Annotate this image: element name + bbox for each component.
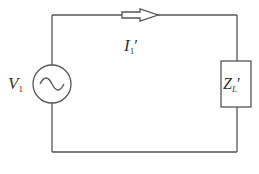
load-label: ZL′ — [223, 76, 240, 94]
current-arrow-icon — [122, 9, 158, 21]
current-prime: ′ — [134, 36, 138, 55]
load-symbol: Z — [223, 75, 232, 92]
load-prime: ′ — [237, 75, 241, 92]
current-label: I1′ — [124, 37, 138, 56]
circuit-diagram — [0, 0, 259, 174]
source-subscript: 1 — [18, 84, 23, 94]
source-label: V1 — [8, 75, 23, 94]
source-symbol: V — [8, 74, 18, 93]
